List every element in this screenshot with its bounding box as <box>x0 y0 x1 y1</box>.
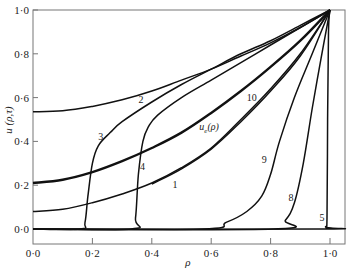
x-tick-label: 0·6 <box>204 247 219 259</box>
curve-label: 5 <box>320 212 325 223</box>
x-tick-label: 0·4 <box>144 247 159 259</box>
curve-4 <box>33 10 330 230</box>
x-tick-label: 0·0 <box>26 247 41 259</box>
curve-8 <box>33 10 330 230</box>
x-tick-label: 0·2 <box>85 247 100 259</box>
y-axis-label: u (ρ,τ) <box>2 106 15 134</box>
x-tick-label: 0·8 <box>263 247 278 259</box>
y-tick-label: 0·4 <box>14 135 29 147</box>
y-tick-label: 0·2 <box>14 179 29 191</box>
curve-label: 2 <box>138 94 143 105</box>
curve-9 <box>33 10 330 230</box>
x-axis-label: ρ <box>184 256 190 268</box>
axis-ticks: 0·00·20·40·60·81·00·00·20·40·60·81·0 <box>14 4 337 259</box>
curve-label: 1 <box>173 179 178 190</box>
curve-label: 10 <box>247 92 257 103</box>
curve-1 <box>33 10 330 212</box>
y-tick-label: 0·0 <box>14 223 29 235</box>
y-tick-label: 1·0 <box>14 4 29 16</box>
curve-label: 8 <box>288 192 293 203</box>
curves <box>33 10 345 230</box>
chart-canvas: 0·00·20·40·60·81·00·00·20·40·60·81·0 2ue… <box>0 0 353 270</box>
x-tick-label: 1·0 <box>323 247 338 259</box>
curve-2 <box>33 10 330 112</box>
curve-label: 9 <box>262 154 267 165</box>
curve-label: ue(ρ) <box>199 121 219 135</box>
curve-label: 3 <box>98 131 103 142</box>
curve-label: 4 <box>140 161 145 172</box>
curve-3 <box>33 10 330 230</box>
y-tick-label: 0·6 <box>14 92 29 104</box>
y-tick-label: 0·8 <box>14 48 29 60</box>
